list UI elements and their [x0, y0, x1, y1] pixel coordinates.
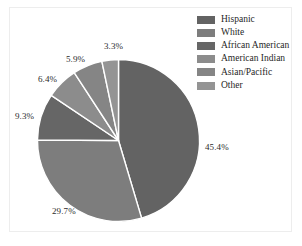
legend-label: White: [221, 28, 244, 38]
pie-slices-group: [37, 60, 199, 222]
legend-swatch-icon: [196, 28, 216, 38]
legend-swatch-icon: [196, 41, 216, 51]
legend: Hispanic White African American American…: [196, 13, 289, 92]
legend-swatch-icon: [196, 54, 216, 64]
legend-label: African American: [221, 41, 289, 51]
legend-item-asian-pacific: Asian/Pacific: [196, 66, 289, 79]
pie-chart-figure: 45.4% 29.7% 9.3% 6.4% 5.9% 3.3% Hispanic…: [0, 0, 302, 246]
slice-label-other: 3.3%: [104, 41, 123, 51]
legend-label: Hispanic: [221, 15, 255, 25]
legend-label: American Indian: [221, 54, 285, 64]
legend-item-african-american: African American: [196, 39, 289, 52]
legend-item-american-indian: American Indian: [196, 53, 289, 66]
legend-item-hispanic: Hispanic: [196, 13, 289, 26]
slice-label-african-american: 9.3%: [15, 111, 34, 121]
legend-label: Other: [221, 81, 243, 91]
legend-item-white: White: [196, 26, 289, 39]
slice-label-white: 29.7%: [52, 206, 76, 216]
legend-item-other: Other: [196, 79, 289, 92]
legend-swatch-icon: [196, 67, 216, 77]
legend-swatch-icon: [196, 81, 216, 91]
slice-label-hispanic: 45.4%: [205, 142, 229, 152]
slice-label-american-indian: 6.4%: [38, 74, 57, 84]
legend-swatch-icon: [196, 15, 216, 25]
legend-label: Asian/Pacific: [221, 68, 272, 78]
slice-label-asian-pacific: 5.9%: [66, 54, 85, 64]
